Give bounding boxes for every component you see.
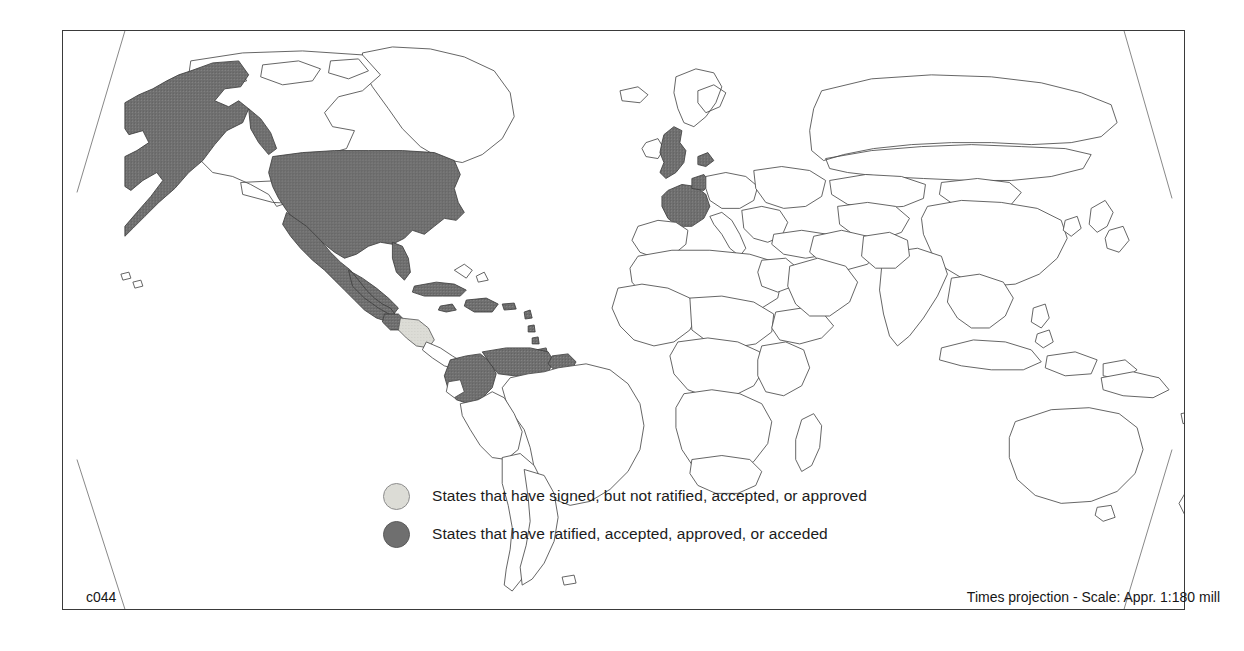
region-south-america <box>444 348 644 591</box>
legend-label-signed: States that have signed, but not ratifie… <box>432 487 867 505</box>
island-tasmania <box>1095 505 1115 521</box>
island-puerto-rico <box>502 303 516 310</box>
island-cuba <box>412 282 466 296</box>
country-germany-poland <box>706 173 758 209</box>
country-italy <box>710 212 746 256</box>
country-france <box>662 184 710 226</box>
island-madagascar <box>796 414 822 472</box>
legend-item-signed: States that have signed, but not ratifie… <box>383 477 1043 515</box>
projection-note: Times projection - Scale: Appr. 1:180 mi… <box>967 589 1220 605</box>
usa-florida <box>392 242 410 280</box>
islands-lesser-antilles <box>524 310 539 344</box>
country-denmark <box>698 153 714 167</box>
region-north-america <box>125 47 514 370</box>
legend-label-ratified: States that have ratified, accepted, app… <box>432 525 828 543</box>
islands-pacific <box>1181 412 1184 424</box>
legend-swatch-ratified-icon <box>383 521 410 548</box>
islands-bahamas <box>454 264 488 282</box>
country-greenland <box>362 47 514 163</box>
region-scandinavia <box>674 69 726 127</box>
legend: States that have signed, but not ratifie… <box>383 477 1043 553</box>
country-united-kingdom <box>660 127 686 179</box>
region-asia <box>788 75 1137 380</box>
country-russia <box>810 75 1117 181</box>
region-east-africa <box>758 342 810 396</box>
region-eastern-europe <box>754 167 826 209</box>
country-kazakhstan <box>830 175 926 209</box>
legend-swatch-signed-icon <box>383 483 410 510</box>
sheet-code: c044 <box>86 589 116 605</box>
island-new-guinea <box>1101 372 1169 398</box>
region-caribbean <box>412 264 548 357</box>
region-central-africa <box>670 338 764 398</box>
islands-falklands <box>562 575 576 585</box>
country-japan <box>1089 200 1129 252</box>
map-page: .ln{fill:none;stroke:#4a4a4a;stroke-widt… <box>0 0 1244 651</box>
region-europe <box>620 69 838 258</box>
country-iceland <box>620 87 648 103</box>
islands-philippines <box>1031 304 1053 348</box>
islands-hawaii <box>121 272 143 288</box>
region-southeast-asia <box>947 274 1013 328</box>
islands-indonesia <box>939 340 1137 380</box>
island-hispaniola <box>464 298 498 312</box>
legend-item-ratified: States that have ratified, accepted, app… <box>383 515 1043 553</box>
island-jamaica <box>438 304 456 312</box>
islands-new-zealand <box>1179 460 1184 520</box>
country-pakistan-afghanistan <box>862 232 910 268</box>
